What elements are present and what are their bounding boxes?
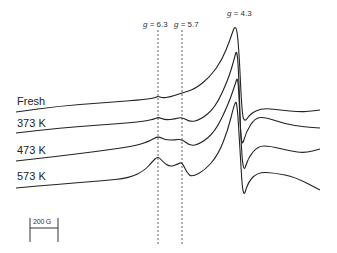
trace-label-fresh: Fresh xyxy=(17,95,45,107)
g63-annotation: g = 6.3 xyxy=(143,20,168,29)
trace-label-373k: 373 K xyxy=(17,117,46,129)
spectra-traces xyxy=(16,27,320,193)
scale-bar-label: 200 G xyxy=(33,218,51,225)
trace-label-573k: 573 K xyxy=(17,170,46,182)
g43-annotation: g = 4.3 xyxy=(227,9,252,18)
g57-annotation: g = 5.7 xyxy=(174,20,199,29)
trace-473k xyxy=(16,79,320,168)
trace-label-473k: 473 K xyxy=(17,144,46,156)
trace-573k xyxy=(16,102,320,193)
trace-fresh xyxy=(16,27,320,120)
epr-spectra-chart xyxy=(0,0,337,253)
